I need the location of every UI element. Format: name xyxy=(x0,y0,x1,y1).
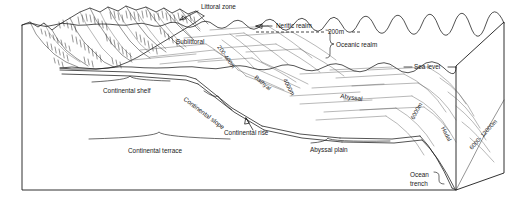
continental-shelf-brace xyxy=(92,76,170,82)
block-outline xyxy=(22,22,504,190)
neritic-realm-label: Neritic realm xyxy=(276,22,312,29)
ocean-trench-annotation: Ocean trench xyxy=(410,171,444,187)
continental-slope-annotation: Continental slope xyxy=(182,91,232,132)
continental-rise-annotation: Continental rise xyxy=(224,118,269,136)
depth-200m-label: 200m xyxy=(328,28,344,35)
abyssal-plain-label: Abyssal plain xyxy=(310,146,348,154)
depth-200-400m-label: 200-400m xyxy=(216,44,236,69)
continental-rise-label: Continental rise xyxy=(224,129,269,136)
depth-200m-annotation: 200m xyxy=(256,28,362,35)
oceanic-realm-label: Oceanic realm xyxy=(336,41,377,48)
abyssal-plain-annotation: Abyssal plain xyxy=(310,138,390,154)
ocean-floor-block-diagram: Littoral zone Neritic realm 200m Oceanic… xyxy=(0,0,511,205)
continental-terrace-label: Continental terrace xyxy=(128,147,182,154)
sublittoral-label: Sublittoral xyxy=(176,38,204,45)
continental-terrace-annotation: Continental terrace xyxy=(89,132,230,154)
continental-shelf-annotation: Continental shelf xyxy=(92,76,170,94)
diagram-canvas: Littoral zone Neritic realm 200m Oceanic… xyxy=(0,0,511,205)
depth-6000-12000m-label: 6000- 12000m xyxy=(468,118,498,150)
littoral-zone-label: Littoral zone xyxy=(201,3,236,10)
ocean-trench-bracket xyxy=(434,172,444,184)
hadal-label: Hadal xyxy=(440,126,453,142)
depth-6000m-label: 6000m xyxy=(410,102,424,121)
littoral-zone-annotation: Littoral zone xyxy=(180,3,236,20)
bathyal-label: Bathyal xyxy=(253,74,272,91)
back-horizon-edge xyxy=(22,12,504,37)
neritic-realm-annotation: Neritic realm xyxy=(256,22,312,29)
continental-terrace-brace xyxy=(89,132,230,139)
ocean-trench-label-line2: trench xyxy=(410,180,428,187)
sea-level-annotation: Sea level xyxy=(404,63,456,70)
sea-level-label: Sea level xyxy=(414,63,440,70)
ocean-trench-label-line1: Ocean xyxy=(410,171,429,178)
continental-shelf-label: Continental shelf xyxy=(103,87,151,94)
